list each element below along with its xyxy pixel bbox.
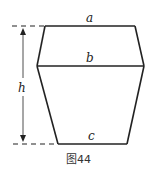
right-lower-side — [127, 66, 144, 144]
left-upper-side — [37, 26, 45, 66]
label-b: b — [86, 51, 94, 65]
arrow-down-icon — [20, 135, 26, 142]
label-c: c — [88, 129, 95, 143]
shape — [37, 26, 144, 144]
label-a: a — [86, 11, 93, 25]
left-lower-side — [37, 66, 58, 144]
arrow-up-icon — [20, 28, 26, 35]
right-upper-side — [135, 26, 144, 66]
figure-caption: 图44 — [66, 153, 91, 166]
trapezoid-diagram: a b c h 图44 — [0, 0, 151, 174]
label-h: h — [18, 81, 26, 95]
